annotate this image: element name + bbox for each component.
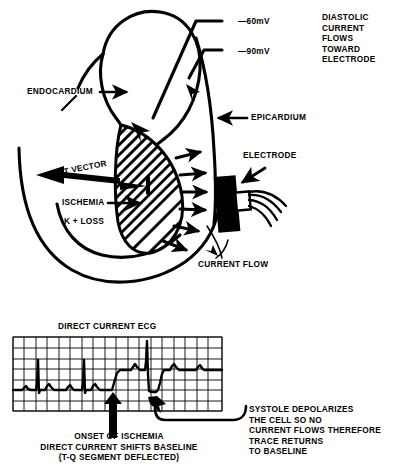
ecg-caption-left: ONSET OF ISCHEMIA DIRECT CURRENT SHIFTS … <box>13 431 225 463</box>
ecg-caption-right: SYSTOLE DEPOLARIZES THE CELL SO NO CURRE… <box>249 404 381 457</box>
ecg-panel <box>0 0 404 474</box>
